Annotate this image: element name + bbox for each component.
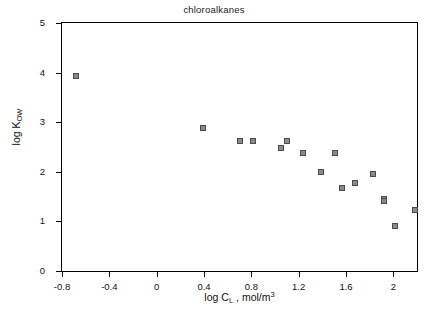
data-point [200, 125, 206, 131]
x-axis-tick [299, 271, 300, 277]
x-axis-title-suffix: , mol/m [236, 291, 270, 303]
data-point [339, 185, 345, 191]
data-point [332, 150, 338, 156]
x-axis-title: log CL, mol/m3 [61, 290, 418, 305]
y-axis-title: log KOW [10, 72, 24, 182]
chart-title: chloroalkanes [0, 4, 428, 15]
x-axis-title-superscript: 3 [270, 290, 274, 299]
data-point [250, 138, 256, 144]
data-point [412, 207, 418, 213]
x-axis-title-prefix: log C [204, 291, 229, 303]
data-point [73, 73, 79, 79]
data-point [237, 138, 243, 144]
x-axis-tick [109, 271, 110, 277]
y-axis-tick [56, 172, 62, 173]
data-point [318, 169, 324, 175]
x-axis-tick [204, 271, 205, 277]
data-point [278, 145, 284, 151]
y-axis-tick-label: 0 [15, 266, 45, 276]
data-point [381, 198, 387, 204]
x-axis-tick [157, 271, 158, 277]
y-axis-tick [56, 73, 62, 74]
data-point [392, 223, 398, 229]
chart-figure: chloroalkanes 012345-0.8-0.400.40.81.21.… [0, 0, 428, 314]
x-axis-title-subscript: L [229, 296, 233, 305]
data-point [370, 171, 376, 177]
x-axis-tick [62, 271, 63, 277]
y-axis-tick-label: 5 [15, 18, 45, 28]
x-axis-tick [251, 271, 252, 277]
data-point [284, 138, 290, 144]
y-axis-tick [56, 221, 62, 222]
plot-frame: 012345-0.8-0.400.40.81.21.62 [61, 22, 418, 272]
y-axis-tick [56, 122, 62, 123]
data-point [300, 150, 306, 156]
plot-area: 012345-0.8-0.400.40.81.21.62 [62, 23, 417, 271]
x-axis-tick [346, 271, 347, 277]
data-point [352, 180, 358, 186]
y-axis-title-prefix: log K [10, 122, 22, 146]
y-axis-title-subscript: OW [15, 109, 24, 122]
y-axis-tick-label: 1 [15, 216, 45, 226]
x-axis-tick [393, 271, 394, 277]
y-axis-tick [56, 23, 62, 24]
